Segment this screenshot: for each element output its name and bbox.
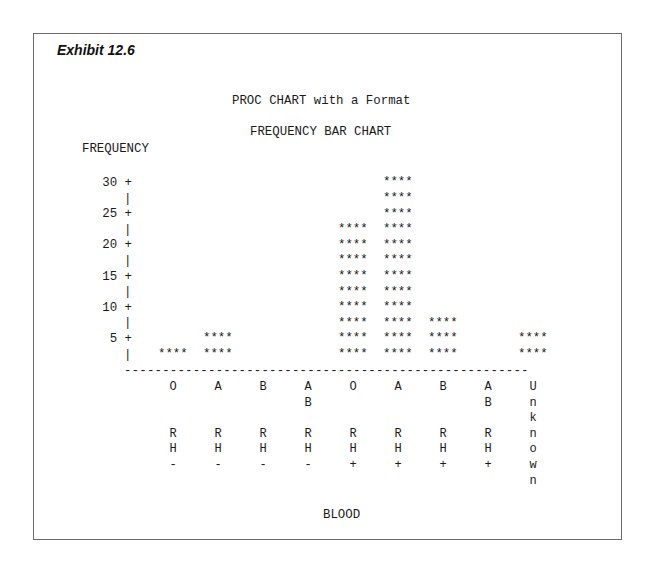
bar-segment: ****	[158, 347, 188, 363]
bar-segment: ****	[383, 300, 413, 316]
bar-segment: ****	[383, 331, 413, 347]
bar-segment: ****	[383, 347, 413, 363]
x-category-label: U n k n o w n	[528, 380, 538, 489]
bar-segment: ****	[383, 191, 413, 207]
y-axis-line: |	[124, 348, 131, 364]
bar-segment: ****	[383, 175, 413, 191]
bar-segment: ****	[428, 316, 458, 332]
bar-segment: ****	[383, 207, 413, 223]
bar-segment: ****	[383, 222, 413, 238]
bar-segment: ****	[203, 347, 233, 363]
bar-segment: ****	[518, 347, 548, 363]
x-category-label: B R H -	[258, 380, 268, 474]
y-tick: 30 +	[92, 176, 132, 192]
y-axis-line: |	[124, 316, 131, 332]
x-category-label: A R H -	[213, 380, 223, 474]
bar-segment: ****	[383, 316, 413, 332]
bar-segment: ****	[203, 331, 233, 347]
x-category-label: O R H -	[168, 380, 178, 474]
bar-segment: ****	[428, 331, 458, 347]
y-axis-label: FREQUENCY	[82, 142, 149, 158]
x-category-label: A R H +	[393, 380, 403, 474]
y-tick: 25 +	[92, 207, 132, 223]
y-axis-line: |	[124, 254, 131, 270]
chart-subtitle: FREQUENCY BAR CHART	[250, 125, 391, 141]
chart-title: PROC CHART with a Format	[232, 94, 410, 110]
y-tick: 5 +	[92, 332, 132, 348]
x-category-label: A B R H +	[483, 380, 493, 474]
bar-segment: ****	[338, 316, 368, 332]
bar-segment: ****	[338, 300, 368, 316]
bar-segment: ****	[338, 222, 368, 238]
x-category-label: O R H +	[348, 380, 358, 474]
x-category-label: A B R H -	[303, 380, 313, 474]
x-axis-baseline: ----------------------------------------…	[124, 364, 529, 378]
y-tick: 10 +	[92, 301, 132, 317]
bar-segment: ****	[428, 347, 458, 363]
y-axis-line: |	[124, 192, 131, 208]
bar-segment: ****	[338, 238, 368, 254]
bar-segment: ****	[518, 331, 548, 347]
bar-segment: ****	[383, 285, 413, 301]
x-axis-label: BLOOD	[323, 508, 360, 524]
bar-segment: ****	[338, 269, 368, 285]
bar-segment: ****	[383, 253, 413, 269]
bar-segment: ****	[338, 253, 368, 269]
bar-segment: ****	[338, 331, 368, 347]
y-axis-line: |	[124, 223, 131, 239]
y-tick: 20 +	[92, 238, 132, 254]
y-axis-line: |	[124, 285, 131, 301]
x-category-label: B R H +	[438, 380, 448, 474]
bar-segment: ****	[383, 238, 413, 254]
y-tick: 15 +	[92, 270, 132, 286]
exhibit-label: Exhibit 12.6	[57, 42, 135, 58]
bar-segment: ****	[338, 285, 368, 301]
bar-segment: ****	[338, 347, 368, 363]
bar-segment: ****	[383, 269, 413, 285]
